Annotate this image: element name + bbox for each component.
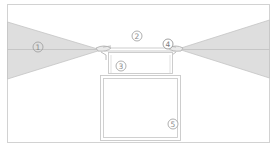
callout-label-2: 2: [135, 32, 140, 41]
lower-housing-outer: [101, 76, 181, 141]
lighting-diagram: 1 2 3 4 5: [0, 0, 277, 156]
callout-label-5: 5: [171, 120, 176, 129]
diagram-canvas: 1 2 3 4 5: [0, 0, 277, 156]
callout-2: 2: [132, 31, 142, 41]
callout-label-1: 1: [36, 43, 41, 52]
callout-label-3: 3: [119, 62, 124, 71]
left-light-cone: [8, 22, 102, 79]
callout-3: 3: [116, 61, 126, 71]
right-light-cone: [178, 20, 270, 78]
callout-label-4: 4: [166, 40, 171, 49]
callout-5: 5: [168, 119, 178, 129]
callout-4: 4: [163, 39, 173, 49]
